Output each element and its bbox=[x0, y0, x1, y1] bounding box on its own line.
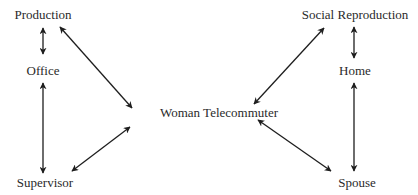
arrow-spouse-woman-telecommuter bbox=[258, 120, 331, 171]
node-spouse: Spouse bbox=[338, 175, 376, 191]
diagram-canvas: Production Office Supervisor Social Repr… bbox=[0, 0, 418, 195]
node-production: Production bbox=[14, 7, 71, 23]
edges-layer bbox=[0, 0, 418, 195]
node-home: Home bbox=[339, 63, 371, 79]
arrow-production-woman-telecommuter bbox=[60, 27, 132, 108]
arrow-socialreproduction-woman-telecommuter bbox=[254, 28, 324, 104]
node-social-reproduction: Social Reproduction bbox=[302, 7, 409, 23]
node-supervisor: Supervisor bbox=[17, 175, 73, 191]
node-woman-telecommuter: Woman Telecommuter bbox=[160, 105, 278, 121]
arrow-supervisor-woman-telecommuter bbox=[72, 127, 130, 171]
node-office: Office bbox=[27, 63, 60, 79]
